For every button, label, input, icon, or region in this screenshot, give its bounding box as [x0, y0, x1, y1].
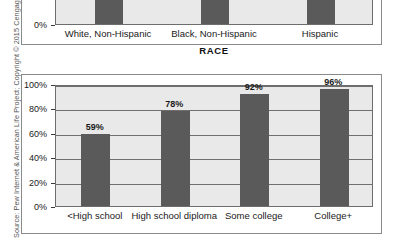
bar-value-label: 96% — [303, 77, 363, 87]
y-axis-tick-mark — [51, 25, 55, 26]
y-axis-tick-mark — [51, 134, 55, 135]
y-axis-tick-mark — [51, 183, 55, 184]
y-axis-tick-mark — [51, 85, 55, 86]
y-axis-tick-mark — [51, 158, 55, 159]
bar-value-label: 59% — [65, 122, 125, 132]
bar-value-label: 92% — [224, 82, 284, 92]
y-axis-tick-label: 0% — [34, 202, 47, 212]
race-chart: 0%20% White, Non-HispanicBlack, Non-Hisp… — [21, 0, 382, 45]
education-chart: 0%20%40%60%80%100% <High schoolHigh scho… — [21, 74, 382, 234]
bar-value-label: 78% — [144, 99, 204, 109]
y-axis-tick-label: 80% — [29, 104, 47, 114]
bar — [307, 0, 335, 24]
bar — [95, 0, 123, 24]
race-axis-title: RACE — [199, 45, 228, 56]
y-axis-tick-label: 100% — [24, 80, 47, 90]
source-credit-text: Source: Pew Internet & American Life Pro… — [12, 0, 21, 238]
y-axis-tick-mark — [51, 109, 55, 110]
x-axis-tick-label: Black, Non-Hispanic — [171, 28, 257, 39]
source-credit-rail: Source: Pew Internet & American Life Pro… — [0, 0, 20, 242]
bar — [81, 134, 110, 206]
y-axis-tick-label: 20% — [29, 178, 47, 188]
y-axis-tick-label: 0% — [34, 20, 47, 30]
y-axis-tick-label: 40% — [29, 153, 47, 163]
x-axis-tick-label: Hispanic — [302, 28, 338, 39]
race-plot-area — [55, 0, 373, 25]
x-axis-tick-label: Some college — [225, 210, 283, 221]
bar — [161, 111, 190, 206]
x-axis-tick-label: High school diploma — [131, 210, 217, 221]
y-axis-tick-label: 60% — [29, 129, 47, 139]
y-axis-tick-mark — [51, 207, 55, 208]
education-plot-area — [55, 85, 373, 207]
x-axis-tick-label: <High school — [67, 210, 122, 221]
x-axis-tick-label: College+ — [314, 210, 352, 221]
bar — [320, 89, 349, 206]
bar — [240, 94, 269, 206]
x-axis-tick-label: White, Non-Hispanic — [65, 28, 152, 39]
bar — [201, 0, 229, 24]
